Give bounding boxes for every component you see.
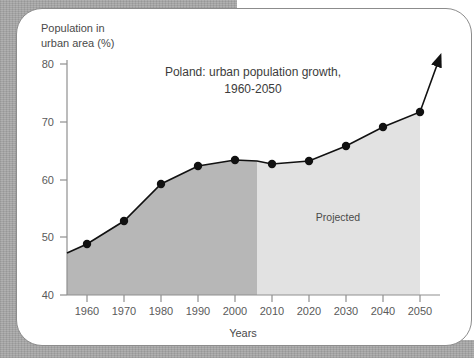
data-point (379, 123, 387, 131)
data-point (342, 142, 350, 150)
y-axis-label-line2: urban area (%) (41, 37, 114, 49)
data-point (268, 160, 276, 168)
x-tick-marks (87, 295, 420, 302)
x-tick-label: 2010 (260, 305, 284, 317)
chart-title-line2: 1960-2050 (224, 82, 282, 96)
x-tick-label: 1980 (149, 305, 173, 317)
data-point (305, 157, 313, 165)
y-tick-label: 60 (42, 174, 54, 186)
x-tick-label: 2050 (408, 305, 432, 317)
data-point (157, 180, 165, 188)
y-tick-label: 40 (42, 289, 54, 301)
projected-annotation: Projected (316, 211, 361, 223)
data-point (120, 217, 128, 225)
y-tick-label: 70 (42, 116, 54, 128)
data-point (194, 162, 202, 170)
x-tick-label: 1960 (75, 305, 99, 317)
x-axis-label: Years (229, 327, 257, 339)
data-point (83, 240, 91, 248)
y-tick-label: 80 (42, 58, 54, 70)
x-tick-label: 2040 (371, 305, 395, 317)
y-tick-marks (60, 64, 67, 295)
chart-title-line1: Poland: urban population growth, (165, 65, 341, 79)
y-tick-label: 50 (42, 231, 54, 243)
data-point (416, 108, 424, 116)
y-axis-label-line1: Population in (41, 22, 105, 34)
chart-screenshot: 80 70 60 50 40 1960 1970 1980 1990 2000 … (0, 0, 474, 358)
x-tick-label: 2020 (297, 305, 321, 317)
x-tick-label: 1970 (112, 305, 136, 317)
x-tick-label: 2030 (334, 305, 358, 317)
projected-area (257, 112, 420, 295)
data-point (231, 156, 239, 164)
x-tick-label: 1990 (186, 305, 210, 317)
x-tick-label: 2000 (223, 305, 247, 317)
population-growth-chart: 80 70 60 50 40 1960 1970 1980 1990 2000 … (0, 0, 474, 358)
